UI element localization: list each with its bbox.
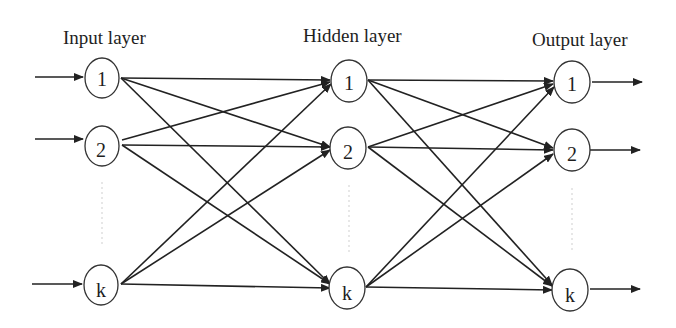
input-arrows	[32, 77, 83, 284]
hidden-output-connections	[366, 80, 554, 290]
hidden-node-1: 1	[331, 60, 367, 102]
hidden-layer-label: Hidden layer	[303, 25, 402, 46]
hidden-node-k: k	[329, 267, 365, 309]
output-node-k: k	[552, 269, 588, 311]
output-layer-label: Output layer	[532, 29, 628, 50]
output-node-2-label: 2	[567, 143, 577, 165]
neural-network-diagram: Input layer Hidden layer Output layer	[0, 0, 676, 328]
input-hidden-connections	[121, 78, 331, 288]
output-node-2: 2	[554, 129, 590, 171]
input-node-k-label: k	[96, 279, 106, 301]
hidden-node-1-label: 1	[344, 72, 354, 94]
input-layer-label: Input layer	[63, 27, 147, 48]
output-node-1: 1	[554, 61, 590, 103]
input-node-k: k	[84, 265, 118, 305]
input-node-1-label: 1	[97, 68, 107, 90]
output-arrows	[590, 82, 642, 289]
output-node-k-label: k	[565, 284, 575, 306]
input-node-2: 2	[85, 126, 119, 166]
hidden-node-2-label: 2	[343, 141, 353, 163]
input-node-2-label: 2	[96, 139, 106, 161]
output-node-1-label: 1	[567, 73, 577, 95]
input-node-1: 1	[85, 58, 119, 98]
hidden-node-2: 2	[330, 127, 366, 169]
hidden-node-k-label: k	[342, 282, 352, 304]
